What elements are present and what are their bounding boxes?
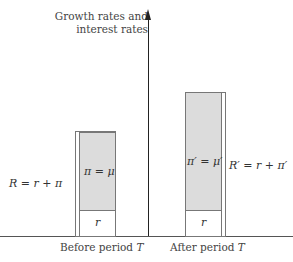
y-axis-title-line2: interest rates	[55, 23, 148, 36]
y-axis-title: Growth rates and interest rates	[55, 10, 148, 36]
category-after: After period T	[170, 241, 245, 253]
category-after-var: T	[238, 241, 245, 253]
label-inflation-before: π = μ	[84, 165, 115, 178]
category-before-var: T	[136, 241, 143, 253]
category-before-text: Before period	[60, 241, 133, 253]
label-nominal-rate-before: R = r + π	[9, 177, 62, 190]
x-axis-baseline	[0, 236, 293, 237]
y-axis	[148, 18, 149, 237]
label-real-rate-after: r	[201, 216, 206, 229]
label-nominal-rate-after: R′ = r + π′	[229, 159, 287, 172]
label-real-rate-before: r	[95, 216, 100, 229]
label-inflation-after: π′ = μ′	[187, 155, 223, 168]
y-axis-title-line1: Growth rates and	[55, 10, 148, 23]
category-after-text: After period	[170, 241, 234, 253]
bar-inflation-after	[185, 92, 222, 211]
category-before: Before period T	[60, 241, 143, 253]
diagram-canvas: Growth rates and interest rates π = μ r …	[0, 0, 293, 262]
